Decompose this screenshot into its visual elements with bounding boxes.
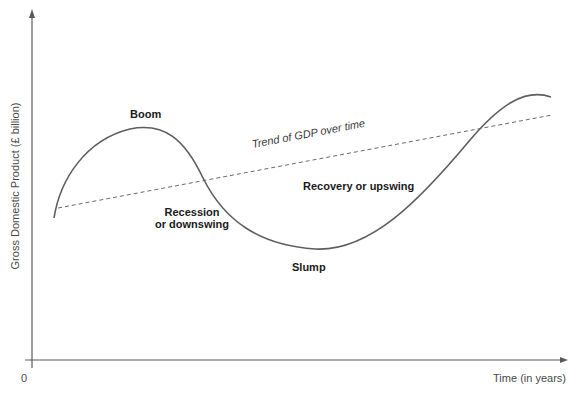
x-axis-label: Time (in years) xyxy=(493,372,566,384)
gdp-cycle-curve xyxy=(54,95,551,250)
x-axis-arrow-icon xyxy=(560,357,568,363)
slump-label: Slump xyxy=(292,261,326,273)
recession-label-line1: Recession xyxy=(152,206,232,218)
y-axis-label: Gross Domestic Product (£ billion) xyxy=(9,103,21,270)
recession-label: Recession or downswing xyxy=(152,206,232,230)
boom-label: Boom xyxy=(130,108,161,120)
recession-label-line2: or downswing xyxy=(152,218,232,230)
origin-label: 0 xyxy=(21,372,27,384)
recovery-label: Recovery or upswing xyxy=(303,180,414,192)
business-cycle-diagram xyxy=(0,0,578,396)
y-axis-arrow-icon xyxy=(29,9,35,18)
